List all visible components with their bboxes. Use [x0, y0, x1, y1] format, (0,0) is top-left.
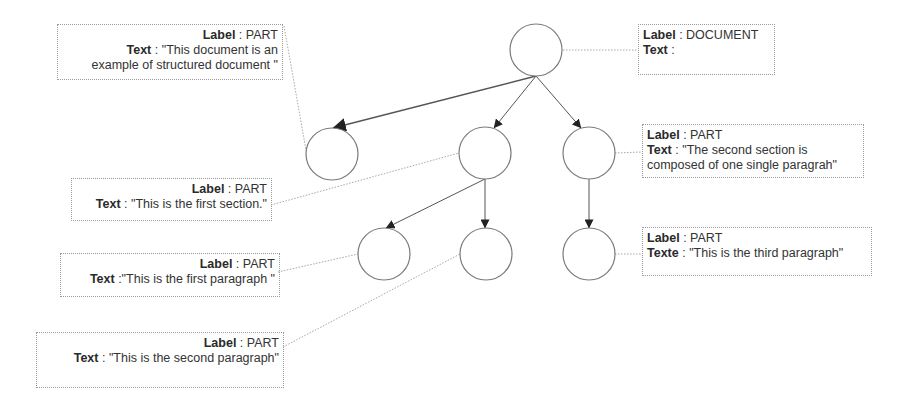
- field-separator: :: [680, 128, 690, 142]
- field-key: Label: [643, 28, 676, 42]
- label-box-row: composed of one single paragrah": [647, 158, 859, 173]
- field-separator: :: [676, 28, 686, 42]
- field-separator: :: [668, 43, 675, 57]
- field-value: "This is the second paragraph": [109, 351, 279, 365]
- field-value: PART: [247, 336, 279, 350]
- field-key: Label: [647, 231, 680, 245]
- field-key: Text: [96, 197, 121, 211]
- field-value: DOCUMENT: [686, 28, 758, 42]
- label-box-row: Texte : "This is the third paragraph": [647, 246, 867, 261]
- label-box-row: Label : PART: [647, 128, 859, 143]
- field-separator: :: [232, 257, 242, 271]
- label-box-section-1: Label : PARTText : "This is the first se…: [71, 178, 272, 221]
- edge-arrow-root-to-section-1: [494, 76, 536, 128]
- leader-line-section-2: [615, 152, 642, 153]
- leader-line-part-intro: [284, 26, 306, 150]
- label-box-paragraph-1: Label : PARTText :"This is the first par…: [60, 253, 280, 297]
- leader-line-section-1: [271, 153, 459, 205]
- edge-arrow-root-to-section-2: [536, 76, 581, 128]
- field-separator: :: [235, 28, 245, 42]
- field-value: "This is the first paragraph ": [122, 272, 275, 286]
- label-box-root: Label : DOCUMENTText :: [638, 24, 775, 75]
- field-key: Label: [192, 182, 225, 196]
- label-box-paragraph-3: Label : PARTTexte : "This is the third p…: [642, 227, 872, 276]
- field-key: Label: [204, 336, 237, 350]
- label-box-row: Label : PART: [647, 231, 867, 246]
- label-box-row: Text : "This is the second paragraph": [41, 351, 279, 366]
- field-value: "The second section is: [682, 143, 807, 157]
- label-box-row: Label : PART: [76, 182, 267, 197]
- label-box-row: Label : PART: [41, 336, 279, 351]
- label-box-row: Text : "This is the first section.": [76, 197, 267, 212]
- tree-nodes: [306, 24, 615, 280]
- field-key: Label: [200, 257, 233, 271]
- label-box-row: Text :"This is the first paragraph ": [65, 272, 275, 287]
- field-value: PART: [246, 28, 278, 42]
- leader-lines: [271, 26, 642, 347]
- field-separator: :: [236, 336, 246, 350]
- label-box-row: Label : DOCUMENT: [643, 28, 770, 43]
- field-value: "This is the third paragraph": [689, 246, 843, 260]
- tree-node-paragraph-2: [460, 228, 512, 280]
- tree-node-root: [510, 24, 562, 76]
- tree-node-paragraph-3: [563, 228, 615, 280]
- field-value: PART: [690, 231, 722, 245]
- field-value: example of structured document ": [92, 58, 278, 72]
- field-value: PART: [690, 128, 722, 142]
- label-box-paragraph-2: Label : PARTText : "This is the second p…: [36, 332, 284, 388]
- field-value: "This document is an: [162, 43, 278, 57]
- tree-node-part-intro: [306, 128, 358, 180]
- edge-arrow-root-to-part-intro: [333, 76, 536, 128]
- field-key: Label: [647, 128, 680, 142]
- tree-node-paragraph-1: [358, 228, 410, 280]
- field-separator: :: [151, 43, 161, 57]
- field-key: Text: [74, 351, 99, 365]
- field-separator: :: [115, 272, 122, 286]
- label-box-row: Label : PART: [62, 28, 278, 43]
- label-box-section-2: Label : PARTText : "The second section i…: [642, 124, 864, 178]
- label-box-row: Text :: [643, 43, 770, 58]
- field-value: "This is the first section.": [131, 197, 267, 211]
- label-box-row: Text : "This document is an: [62, 43, 278, 58]
- label-box-row: Label : PART: [65, 257, 275, 272]
- field-separator: :: [679, 246, 689, 260]
- field-key: Text: [647, 143, 672, 157]
- label-box-part-intro: Label : PARTText : "This document is ane…: [57, 24, 283, 80]
- field-separator: :: [121, 197, 131, 211]
- field-value: PART: [243, 257, 275, 271]
- field-separator: :: [680, 231, 690, 245]
- tree-node-section-2: [563, 127, 615, 179]
- field-separator: :: [672, 143, 682, 157]
- document-tree-diagram: Label : DOCUMENTText :Label : PARTText :…: [0, 0, 915, 405]
- leader-line-paragraph-1: [278, 254, 358, 272]
- label-box-row: Text : "The second section is: [647, 143, 859, 158]
- field-value: composed of one single paragrah": [647, 158, 837, 172]
- field-key: Text: [90, 272, 115, 286]
- field-key: Label: [203, 28, 236, 42]
- label-box-row: example of structured document ": [62, 58, 278, 73]
- field-separator: :: [224, 182, 234, 196]
- tree-node-section-1: [459, 127, 511, 179]
- field-key: Text: [643, 43, 668, 57]
- edge-arrow-section-1-to-paragraph-1: [386, 179, 485, 228]
- field-separator: :: [98, 351, 108, 365]
- field-key: Texte: [647, 246, 679, 260]
- field-key: Text: [127, 43, 152, 57]
- field-value: PART: [235, 182, 267, 196]
